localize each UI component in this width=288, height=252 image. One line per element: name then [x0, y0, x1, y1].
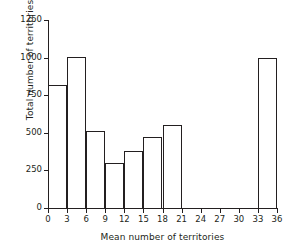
y-tick-label: 0 — [37, 202, 42, 213]
x-axis-title: Mean number of territories — [48, 232, 277, 242]
histogram-bar — [67, 57, 86, 208]
x-tick-mark — [182, 208, 183, 213]
x-tick-mark — [258, 208, 259, 213]
x-tick-label: 36 — [265, 214, 288, 225]
x-tick-mark — [48, 208, 49, 213]
histogram-bar — [86, 131, 105, 208]
histogram-bar — [105, 163, 124, 208]
histogram-figure: Total number of territories 025050075010… — [0, 0, 288, 252]
histogram-bar — [48, 85, 67, 208]
x-tick-mark — [67, 208, 68, 213]
x-tick-mark — [239, 208, 240, 213]
x-tick-mark — [220, 208, 221, 213]
x-tick-mark — [105, 208, 106, 213]
x-tick-mark — [163, 208, 164, 213]
x-tick-mark — [143, 208, 144, 213]
y-tick-label: 500 — [26, 127, 42, 138]
histogram-bar — [124, 151, 143, 208]
x-tick-mark — [124, 208, 125, 213]
x-tick-mark — [201, 208, 202, 213]
x-tick-mark — [277, 208, 278, 213]
plot-area: 025050075010001250 036912151821242730333… — [48, 20, 277, 208]
y-tick-label: 1250 — [20, 14, 42, 25]
y-tick-label: 1000 — [20, 52, 42, 63]
x-tick-mark — [86, 208, 87, 213]
histogram-bar — [163, 125, 182, 208]
histogram-bar — [143, 137, 162, 208]
y-tick-label: 250 — [26, 164, 42, 175]
histogram-bar — [258, 58, 277, 208]
y-tick-mark — [44, 58, 48, 59]
y-tick-mark — [44, 20, 48, 21]
y-tick-label: 750 — [26, 89, 42, 100]
